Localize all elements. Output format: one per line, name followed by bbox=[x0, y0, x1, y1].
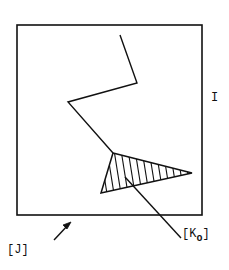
label-k-close: ] bbox=[202, 227, 209, 241]
frame-box bbox=[17, 25, 202, 215]
k-pointer-line bbox=[125, 177, 181, 238]
hatched-triangle bbox=[100, 150, 192, 200]
label-j: [J] bbox=[7, 243, 29, 257]
label-i: I bbox=[211, 91, 218, 105]
label-k: [Ko] bbox=[182, 227, 210, 244]
zigzag-line bbox=[68, 35, 137, 153]
diagram-canvas: I [J] [Ko] bbox=[0, 0, 229, 270]
label-k-base: [K bbox=[182, 227, 197, 241]
arrow-icon bbox=[54, 222, 71, 240]
